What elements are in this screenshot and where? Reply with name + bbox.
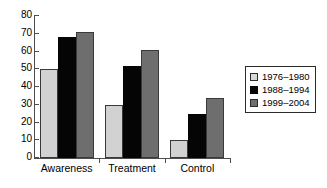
bar	[206, 98, 224, 158]
y-tick-mark	[34, 51, 39, 52]
bar	[188, 114, 206, 158]
y-tick-label: 70	[21, 27, 32, 38]
y-tick-label: 10	[21, 133, 32, 144]
y-tick-label: 40	[21, 80, 32, 91]
y-tick-label: 60	[21, 45, 32, 56]
legend-item: 1999–2004	[250, 96, 310, 109]
y-tick-label: 0	[26, 151, 32, 162]
legend-swatch-icon	[250, 86, 258, 94]
legend: 1976–19801988–19941999–2004	[245, 66, 316, 113]
legend-item: 1988–1994	[250, 83, 310, 96]
legend-swatch-icon	[250, 99, 258, 107]
bar-group	[170, 16, 224, 158]
bar-group	[105, 16, 159, 158]
y-tick-mark	[34, 104, 39, 105]
legend-label: 1976–1980	[262, 71, 310, 82]
y-tick-label: 20	[21, 116, 32, 127]
category-label: Control	[157, 162, 237, 174]
bar-chart: 01020304050607080 AwarenessTreatmentCont…	[0, 0, 327, 188]
bar	[58, 37, 76, 158]
y-tick-mark	[34, 122, 39, 123]
bar	[141, 50, 159, 158]
y-tick-mark	[34, 15, 39, 16]
bar	[40, 69, 58, 158]
bar	[170, 140, 188, 158]
y-tick-mark	[34, 68, 39, 69]
legend-item: 1976–1980	[250, 70, 310, 83]
y-tick-mark	[34, 139, 39, 140]
bar	[76, 32, 94, 158]
bar	[123, 66, 141, 158]
legend-label: 1999–2004	[262, 97, 310, 108]
bar-group	[40, 16, 94, 158]
y-tick-mark	[34, 86, 39, 87]
x-axis-line	[34, 158, 231, 159]
legend-label: 1988–1994	[262, 84, 310, 95]
y-tick-mark	[34, 157, 39, 158]
y-tick-label: 50	[21, 62, 32, 73]
legend-swatch-icon	[250, 73, 258, 81]
plot-area: 01020304050607080	[34, 16, 230, 158]
y-tick-label: 30	[21, 98, 32, 109]
y-tick-label: 80	[21, 9, 32, 20]
y-tick-mark	[34, 33, 39, 34]
bar	[105, 105, 123, 158]
